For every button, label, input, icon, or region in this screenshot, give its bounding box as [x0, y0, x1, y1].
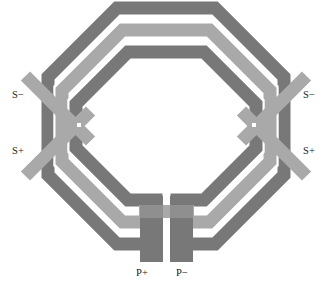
transformer-layout-diagram	[0, 0, 333, 292]
terminal-label-p-plus: P+	[136, 268, 148, 279]
terminal-label-s-plus-left: S+	[12, 146, 24, 157]
secondary-bridge-bottom	[139, 205, 194, 218]
winding-ring-inner	[76, 52, 256, 200]
via-right	[252, 123, 256, 127]
via-left	[77, 123, 81, 127]
terminal-label-p-minus: P−	[176, 268, 188, 279]
figure-canvas: S− S+ S− S+ P+ P−	[0, 0, 333, 292]
terminal-label-s-minus-right: S−	[303, 90, 315, 101]
terminal-label-s-minus-left: S−	[12, 90, 24, 101]
winding-gap-inner	[69, 44, 263, 208]
winding-ring-middle	[62, 30, 270, 222]
terminal-label-s-plus-right: S+	[303, 146, 315, 157]
